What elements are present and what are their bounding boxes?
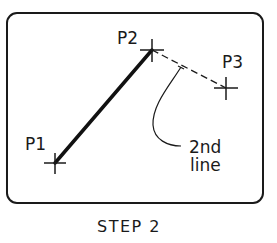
- first-line-segment: [55, 50, 152, 163]
- second-line-dashed-segment: [152, 50, 226, 88]
- diagram-canvas: P1 P2 P3 2nd line STEP 2: [0, 0, 277, 243]
- annotation-leader-curve: [153, 67, 181, 146]
- point-label-p1: P1: [25, 134, 46, 154]
- point-label-p2: P2: [117, 28, 138, 48]
- point-label-p3: P3: [222, 52, 243, 72]
- annotation-text-line2: line: [190, 155, 221, 175]
- step-caption: STEP 2: [97, 217, 161, 236]
- annotation-text-line1: 2nd: [189, 137, 221, 157]
- crosshair-icon-p3: [214, 77, 238, 100]
